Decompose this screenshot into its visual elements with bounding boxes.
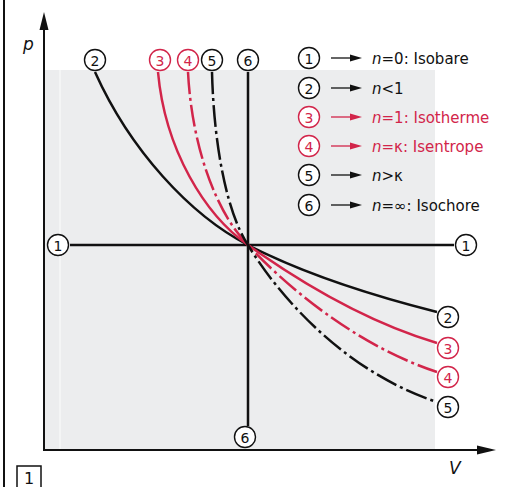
svg-text:n=0: Isobare: n=0: Isobare — [372, 50, 469, 68]
svg-text:6: 6 — [241, 430, 250, 446]
arrow-right-icon — [350, 55, 362, 62]
svg-text:1: 1 — [24, 469, 34, 487]
svg-text:2: 2 — [91, 53, 100, 69]
label-circle-1-right: 1 — [456, 235, 477, 256]
pv-diagram: p V 2 3 4 5 6 1 1 2 3 — [0, 0, 528, 487]
label-circle-6-top: 6 — [238, 50, 259, 71]
svg-text:n=∞: Isochore: n=∞: Isochore — [372, 197, 480, 215]
svg-text:n=κ: Isentrope: n=κ: Isentrope — [372, 138, 483, 156]
svg-text:1: 1 — [462, 238, 471, 254]
x-axis-label: V — [449, 458, 462, 478]
label-circle-2-top: 2 — [85, 50, 106, 71]
svg-text:n=1: Isotherme: n=1: Isotherme — [372, 109, 489, 127]
svg-text:4: 4 — [305, 139, 314, 155]
label-circle-6-bottom: 6 — [235, 427, 256, 448]
y-axis-arrow-icon — [40, 12, 49, 30]
label-circle-3-top: 3 — [150, 50, 171, 71]
svg-text:4: 4 — [184, 53, 193, 69]
svg-text:n<1: n<1 — [372, 80, 404, 98]
svg-text:3: 3 — [156, 53, 165, 69]
label-circle-5-right: 5 — [438, 397, 459, 418]
svg-text:5: 5 — [444, 400, 453, 416]
svg-text:1: 1 — [305, 51, 314, 67]
svg-text:6: 6 — [305, 198, 314, 214]
svg-text:1: 1 — [54, 238, 63, 254]
x-axis-arrow-icon — [477, 446, 496, 455]
svg-text:3: 3 — [305, 110, 314, 126]
legend-row-1: 1 n=0: Isobare — [299, 48, 469, 69]
label-circle-1-left: 1 — [48, 235, 69, 256]
svg-text:3: 3 — [444, 341, 453, 357]
svg-text:2: 2 — [305, 81, 314, 97]
svg-text:4: 4 — [444, 370, 453, 386]
svg-text:5: 5 — [208, 53, 217, 69]
label-circle-4-right: 4 — [438, 367, 459, 388]
svg-text:2: 2 — [444, 310, 453, 326]
label-circle-3-right: 3 — [438, 338, 459, 359]
svg-text:n>κ: n>κ — [372, 167, 403, 185]
figure-number-box: 1 — [17, 466, 41, 487]
shaded-area — [45, 70, 435, 450]
y-axis-label: p — [22, 34, 34, 54]
label-circle-5-top: 5 — [202, 50, 223, 71]
svg-text:5: 5 — [305, 168, 314, 184]
label-circle-2-right: 2 — [438, 307, 459, 328]
label-circle-4-top: 4 — [178, 50, 199, 71]
svg-text:6: 6 — [244, 53, 253, 69]
